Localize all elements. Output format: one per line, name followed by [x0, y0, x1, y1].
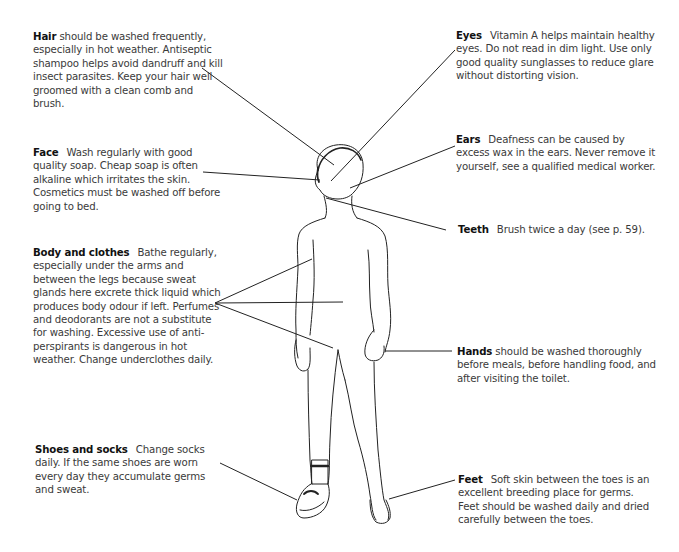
annotation-text: Bathe regularly, especially under the ar…	[33, 247, 221, 365]
annotation-heading: Eyes	[456, 30, 482, 41]
annotation-ears: EarsDeafness can be caused by excess wax…	[456, 133, 661, 173]
annotation-heading: Hair	[33, 31, 56, 42]
annotation-text: Wash regularly with good quality soap. C…	[33, 147, 220, 212]
annotation-text: Deafness can be caused by excess wax in …	[456, 134, 655, 172]
annotation-heading: Face	[33, 147, 59, 158]
annotation-shoes-and-socks: Shoes and socksChange socks daily. If th…	[35, 443, 225, 497]
annotation-text: Soft skin between the toes is an excelle…	[458, 474, 649, 525]
annotation-hair: Hair should be washed frequently, especi…	[33, 30, 223, 110]
annotation-text: Vitamin A helps maintain healthy eyes. D…	[456, 30, 655, 81]
leader-eyes	[331, 50, 455, 181]
shoe	[296, 484, 329, 518]
annotation-heading: Body and clothes	[33, 247, 129, 258]
annotation-hands: Hands should be washed thoroughly before…	[457, 345, 657, 385]
annotation-feet: FeetSoft skin between the toes is an exc…	[458, 473, 658, 527]
annotation-heading: Teeth	[458, 224, 489, 235]
sock	[312, 460, 328, 484]
right-hand	[365, 330, 384, 361]
annotation-heading: Ears	[456, 134, 480, 145]
neck-outline	[324, 196, 327, 218]
annotation-body-and-clothes: Body and clothesBathe regularly, especia…	[33, 246, 228, 367]
leader-ears	[350, 146, 455, 188]
leader-feet	[389, 480, 455, 499]
annotation-teeth: TeethBrush twice a day (see p. 59).	[458, 223, 678, 236]
leader-shoes	[220, 463, 297, 500]
annotation-text: should be washed frequently, especially …	[33, 31, 223, 109]
annotation-heading: Shoes and socks	[35, 444, 128, 455]
leader-body-chest	[215, 302, 343, 303]
left-hand	[295, 340, 311, 371]
crotch	[338, 350, 345, 380]
torso-outline	[296, 218, 325, 358]
leader-body-groin	[215, 303, 333, 348]
annotation-heading: Hands	[457, 346, 492, 357]
hair-outline	[318, 148, 361, 170]
annotation-face: FaceWash regularly with good quality soa…	[33, 146, 228, 213]
leader-teeth	[326, 198, 446, 230]
annotation-eyes: EyesVitamin A helps maintain healthy eye…	[456, 29, 656, 83]
annotation-text: Brush twice a day (see p. 59).	[497, 224, 645, 235]
annotation-heading: Feet	[458, 474, 483, 485]
leader-lines	[202, 50, 455, 500]
right-leg	[345, 380, 376, 520]
